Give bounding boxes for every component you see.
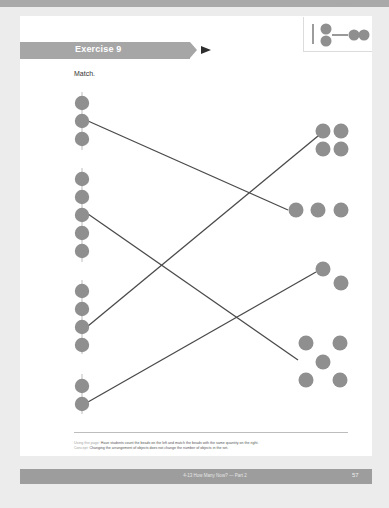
notes-divider <box>74 432 348 433</box>
match-lines <box>88 121 318 402</box>
match-line-2[interactable] <box>88 272 316 402</box>
footer-lesson-title: 4-13 How Many Now? — Part 2 <box>150 473 280 478</box>
left-group-3-beads[interactable] <box>75 96 89 146</box>
right-set-5-beads[interactable] <box>299 336 348 388</box>
using-this-page-label: Using this page: <box>74 441 100 445</box>
right-set-4-beads[interactable] <box>316 124 349 157</box>
teacher-notes: Using this page: Have students count the… <box>74 441 364 451</box>
right-set-3-beads[interactable] <box>289 203 349 218</box>
concept-note: Concept: Changing the arrangement of obj… <box>74 446 364 451</box>
match-line-3[interactable] <box>88 121 288 210</box>
using-this-page-text: Have students count the beads on the lef… <box>101 441 259 445</box>
concept-label: Concept: <box>74 446 88 450</box>
left-group-5-beads[interactable] <box>75 172 89 258</box>
page-number: 57 <box>352 472 359 478</box>
match-line-4[interactable] <box>88 136 318 326</box>
right-set-2-beads[interactable] <box>316 262 349 291</box>
concept-text: Changing the arrangement of objects does… <box>89 446 228 450</box>
match-line-5[interactable] <box>88 214 298 360</box>
